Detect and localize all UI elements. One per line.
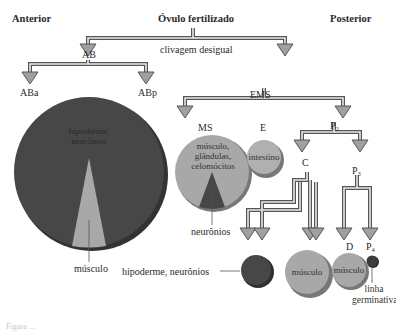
cell-label-d: D	[346, 241, 353, 252]
cell-label-aba: ABa	[20, 87, 38, 98]
cell-label-ms: MS	[198, 122, 212, 133]
fate-ms-wedge: neurônios	[191, 226, 230, 237]
cell-label-ems: EMS	[250, 89, 271, 100]
cell-label-c: C	[302, 157, 309, 168]
posterior-label: Posterior	[330, 13, 371, 24]
fate-ab-wedge: músculo	[74, 263, 108, 274]
cell-label-p2: P₂	[330, 120, 339, 131]
cell-label-e: E	[260, 122, 266, 133]
fate-e: intestino	[246, 152, 282, 162]
cell-label-abp: ABp	[138, 87, 157, 98]
fertilized-egg-label: Óvulo fertilizado	[158, 13, 234, 24]
p4-cell	[367, 256, 378, 267]
fate-ab-main: hipoderme, neurônios	[54, 126, 124, 146]
figure-caption-partial: Figura ...	[6, 322, 390, 332]
fate-d: músculo	[332, 265, 366, 275]
cell-label-ab: AB	[82, 49, 96, 60]
fate-c-dark: hipoderme, neurônios	[122, 266, 209, 277]
cell-label-p3: P₃	[352, 165, 361, 176]
c-dark-cell	[241, 255, 271, 285]
fate-c-light: músculo	[287, 267, 327, 277]
cell-label-p4: P₄	[366, 241, 375, 252]
anterior-label: Anterior	[12, 13, 51, 24]
fate-ms-main: músculo, glândulas, celomócitos	[186, 141, 240, 171]
fate-p4: linha germinativa	[352, 284, 396, 306]
unequal-cleavage-label: clivagem desigual	[160, 44, 232, 55]
